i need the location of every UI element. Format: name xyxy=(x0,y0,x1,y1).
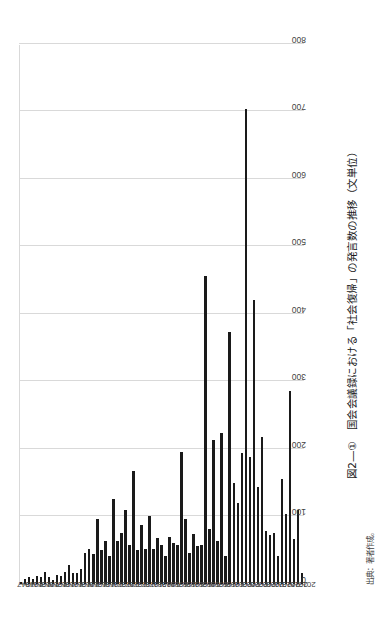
value-tick-300: 300 xyxy=(292,373,306,383)
bar-1987 xyxy=(180,452,182,584)
bar-2002 xyxy=(241,453,243,584)
bar-2007 xyxy=(261,437,263,584)
year-label-2017: 2017 xyxy=(298,580,332,589)
bar-1997 xyxy=(220,433,222,584)
value-tick-200: 200 xyxy=(292,440,306,450)
figure-source: 出典：著者作成。 xyxy=(364,529,375,585)
bar-1994 xyxy=(208,529,210,584)
plot-area xyxy=(19,45,304,585)
rotated-figure-stage: 0100200300400500600700800 19471949195119… xyxy=(0,0,382,626)
bar-1967 xyxy=(100,550,102,584)
value-tick-100: 100 xyxy=(292,508,306,518)
figure-caption: 図2―① 国会会議録における「社会復帰」の発言数の推移（文単位） xyxy=(344,0,359,626)
bar-1978 xyxy=(144,549,146,584)
bar-1966 xyxy=(96,519,98,584)
value-tick-400: 400 xyxy=(292,305,306,315)
bar-1977 xyxy=(140,525,142,584)
bar-2008 xyxy=(265,531,267,584)
bar-2013 xyxy=(285,514,287,584)
bar-2015 xyxy=(293,539,295,584)
bar-1973 xyxy=(124,510,126,584)
bar-1992 xyxy=(200,545,202,584)
bar-2004 xyxy=(249,457,251,584)
bar-2014 xyxy=(289,391,291,584)
bar-1991 xyxy=(196,546,198,584)
bar-1986 xyxy=(176,545,178,584)
bar-1999 xyxy=(228,332,230,584)
value-tick-600: 600 xyxy=(292,170,306,180)
bar-2016 xyxy=(297,510,299,584)
bar-1968 xyxy=(104,541,106,584)
bar-1976 xyxy=(136,550,138,584)
bar-1988 xyxy=(184,519,186,584)
gridline-800 xyxy=(19,43,304,44)
value-axis: 0100200300400500600700800 xyxy=(306,45,346,585)
bar-2010 xyxy=(273,533,275,584)
bar-2000 xyxy=(233,483,235,584)
category-axis: 1947194919511953195519571959196119631965… xyxy=(19,586,304,626)
bar-1995 xyxy=(212,440,214,584)
bar-1974 xyxy=(128,545,130,584)
bar-1985 xyxy=(172,544,174,585)
bar-2001 xyxy=(237,503,239,584)
bar-2005 xyxy=(253,301,255,585)
bar-1996 xyxy=(216,541,218,584)
bar-1964 xyxy=(88,549,90,584)
bar-2006 xyxy=(257,487,259,584)
value-tick-500: 500 xyxy=(292,238,306,248)
bar-2009 xyxy=(269,535,271,584)
bar-1981 xyxy=(156,538,158,584)
bar-1982 xyxy=(160,545,162,584)
bar-1975 xyxy=(132,471,134,584)
bar-1972 xyxy=(120,533,122,584)
value-tick-800: 800 xyxy=(292,35,306,45)
bar-1980 xyxy=(152,549,154,584)
bar-1993 xyxy=(204,276,206,584)
value-tick-700: 700 xyxy=(292,103,306,113)
bar-1990 xyxy=(192,534,194,584)
chart-figure: 0100200300400500600700800 19471949195119… xyxy=(0,0,382,626)
bar-2003 xyxy=(245,109,247,584)
bar-1984 xyxy=(168,537,170,584)
bar-1979 xyxy=(148,517,150,585)
bar-series xyxy=(19,45,304,584)
bar-2012 xyxy=(281,479,283,584)
bar-1970 xyxy=(112,499,114,584)
bar-1971 xyxy=(116,541,118,584)
